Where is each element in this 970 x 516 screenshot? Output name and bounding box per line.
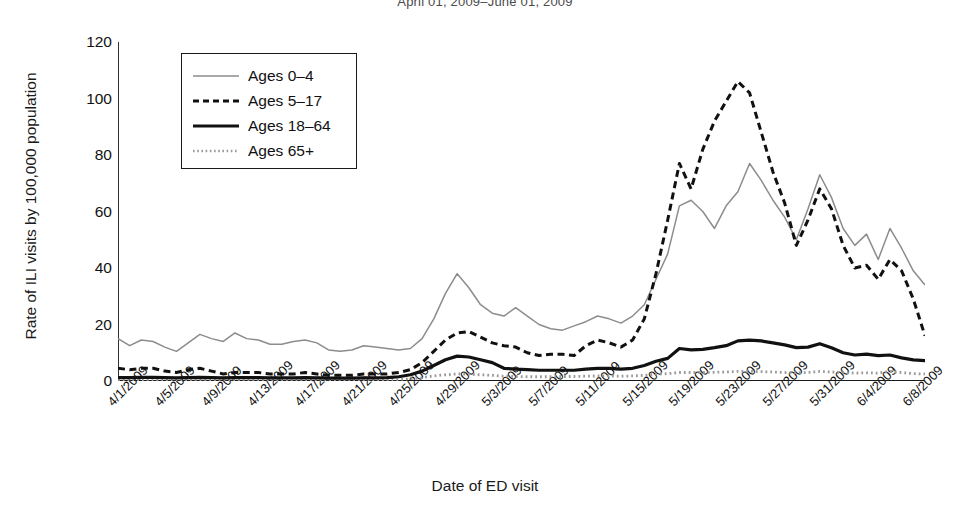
chart-legend: Ages 0–4 Ages 5–17 Ages 18–64 Ages 65+ (181, 53, 357, 169)
legend-item-ages-5-17: Ages 5–17 (182, 88, 356, 113)
legend-swatch-ages-5-17 (192, 94, 240, 108)
legend-item-ages-0-4: Ages 0–4 (182, 63, 356, 88)
legend-label-ages-65-plus: Ages 65+ (248, 143, 314, 159)
chart-page: April 01, 2009–June 01, 2009 Rate of ILI… (0, 0, 970, 516)
series-line (118, 163, 925, 351)
legend-swatch-ages-18-64 (192, 119, 240, 133)
legend-item-ages-18-64: Ages 18–64 (182, 113, 356, 138)
legend-label-ages-0-4: Ages 0–4 (248, 68, 314, 84)
legend-label-ages-5-17: Ages 5–17 (248, 93, 322, 109)
legend-item-ages-65-plus: Ages 65+ (182, 138, 356, 163)
legend-swatch-ages-0-4 (192, 69, 240, 83)
legend-swatch-ages-65-plus (192, 144, 240, 158)
legend-label-ages-18-64: Ages 18–64 (248, 118, 331, 134)
